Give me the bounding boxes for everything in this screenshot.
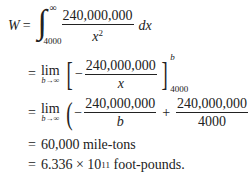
differential: dx <box>139 18 152 34</box>
equation-row-foot-pounds: = 6.336 × 1011 foot-pounds. <box>25 157 185 173</box>
term1-fraction: 240,000,000 b <box>84 96 156 129</box>
work-integral-derivation: W = ∫ ∞ 4000 240,000,000 x2 dx = lim b→∞… <box>0 0 252 176</box>
left-bracket: [ <box>66 57 72 91</box>
result-exponent: 11 <box>101 160 110 170</box>
equals-sign: = <box>28 157 36 173</box>
right-bracket: ] <box>161 57 167 91</box>
equals-sign: = <box>28 105 36 121</box>
equals-sign: = <box>28 66 36 82</box>
minus-sign: − <box>75 66 83 82</box>
antiderivative-fraction: 240,000,000 x <box>85 58 157 91</box>
plus-sign: + <box>162 105 170 121</box>
term2-fraction: 240,000,000 4000 <box>176 96 248 129</box>
equation-row-integral: W = ∫ ∞ 4000 240,000,000 x2 dx <box>8 6 152 46</box>
result-mantissa: 6.336 × 10 <box>41 157 101 173</box>
minus-sign: − <box>74 105 82 121</box>
integrand-denominator: x2 <box>92 25 103 44</box>
left-paren: ( <box>66 97 72 129</box>
equals-sign: = <box>23 18 31 34</box>
integral-upper-limit: ∞ <box>50 2 57 13</box>
evaluation-limits: b 4000 <box>170 54 196 94</box>
equation-row-limit-evaluation: = lim b→∞ ( − 240,000,000 b + 240,000,00… <box>25 96 252 129</box>
equals-sign: = <box>28 137 36 153</box>
equation-row-mile-tons: = 60,000 mile-tons <box>25 137 136 153</box>
limit-operator: lim b→∞ <box>41 102 60 123</box>
result-mile-tons: 60,000 mile-tons <box>41 137 136 153</box>
integral-lower-limit: 4000 <box>44 36 62 46</box>
limit-operator: lim b→∞ <box>41 64 60 85</box>
integrand-numerator: 240,000,000 <box>62 8 134 25</box>
integrand-fraction: 240,000,000 x2 <box>62 8 134 44</box>
result-unit: foot-pounds. <box>110 157 185 173</box>
variable-w: W <box>8 18 20 34</box>
integral-sign: ∫ ∞ 4000 <box>36 6 58 46</box>
equation-row-antiderivative: = lim b→∞ [ − 240,000,000 x ] b 4000 <box>25 54 196 94</box>
